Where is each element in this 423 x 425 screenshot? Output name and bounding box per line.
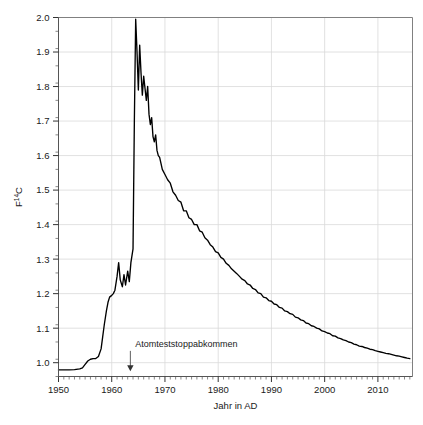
y-axis-tick-label: 1.4 [36,219,49,230]
chart-figure: 19501960197019801990200020101.01.11.21.3… [0,0,423,425]
f14c-bomb-curve-chart: 19501960197019801990200020101.01.11.21.3… [0,0,423,425]
annotation-label-atomteststoppabkommen: Atomteststoppabkommen [135,339,237,349]
x-axis-tick-label: 2010 [367,384,388,395]
x-axis-title: Jahr in AD [214,400,258,411]
y-axis-tick-label: 1.1 [36,323,49,334]
x-axis-tick-label: 2000 [314,384,335,395]
x-axis-tick-label: 1990 [261,384,282,395]
y-axis-tick-label: 1.3 [36,254,49,265]
y-axis-tick-label: 1.9 [36,46,49,57]
x-axis-tick-label: 1980 [208,384,229,395]
y-axis-tick-label: 1.5 [36,184,49,195]
y-axis-tick-label: 1.7 [36,115,49,126]
x-axis-tick-label: 1950 [48,384,69,395]
x-axis-tick-label: 1970 [154,384,175,395]
y-axis-tick-label: 2.0 [36,12,49,23]
y-axis-tick-label: 1.2 [36,288,49,299]
x-axis-tick-label: 1960 [101,384,122,395]
y-axis-tick-label: 1.6 [36,150,49,161]
y-axis-title: F14C [13,187,25,207]
svg-text:F14C: F14C [13,187,25,207]
y-axis-tick-label: 1.0 [36,357,49,368]
y-axis-tick-label: 1.8 [36,81,49,92]
